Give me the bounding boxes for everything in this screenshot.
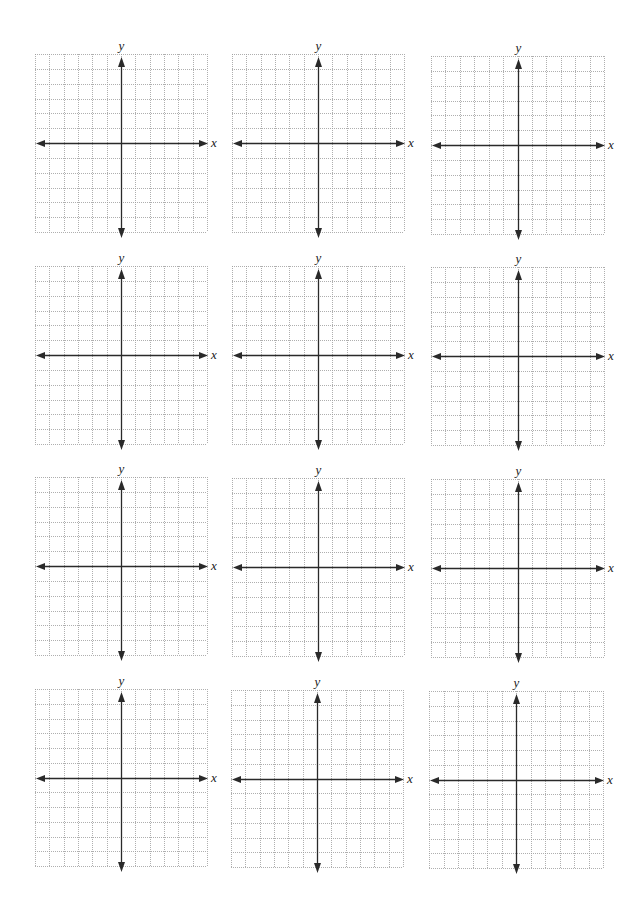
arrow-right-icon (595, 777, 604, 784)
x-axis-label: x (607, 773, 613, 786)
coordinate-plane-12: yx (429, 691, 603, 868)
coordinate-plane-7: yx (35, 477, 207, 655)
arrow-left-icon (432, 142, 441, 149)
arrow-up-icon (315, 57, 322, 67)
coordinate-plane-2: yx (232, 54, 404, 232)
arrow-up-icon (515, 59, 522, 69)
grid (35, 689, 207, 866)
y-axis-label: y (315, 675, 321, 688)
y-axis-label: y (316, 463, 322, 476)
grid (232, 478, 404, 656)
arrow-up-icon (315, 481, 322, 491)
arrow-right-icon (199, 775, 208, 782)
x-axis-label: x (211, 348, 217, 361)
arrow-right-icon (396, 352, 405, 359)
x-axis-label: x (408, 348, 414, 361)
arrow-left-icon (36, 775, 45, 782)
arrow-down-icon (118, 440, 125, 450)
arrow-left-icon (432, 353, 441, 360)
x-axis-label: x (608, 349, 614, 362)
y-axis-label: y (119, 39, 125, 52)
arrow-down-icon (314, 863, 321, 873)
arrow-down-icon (315, 440, 322, 450)
grid (35, 54, 207, 232)
coordinate-plane-10: yx (35, 689, 207, 866)
arrow-right-icon (596, 353, 605, 360)
arrow-up-icon (513, 694, 520, 704)
grid (431, 267, 604, 445)
arrow-up-icon (315, 269, 322, 279)
grid (429, 691, 603, 868)
arrow-down-icon (515, 230, 522, 240)
arrow-left-icon (233, 564, 242, 571)
y-axis-label: y (316, 251, 322, 264)
x-axis-label: x (407, 772, 413, 785)
y-axis-label: y (119, 674, 125, 687)
arrow-left-icon (36, 140, 45, 147)
grid (431, 479, 604, 657)
arrow-right-icon (396, 140, 405, 147)
arrow-up-icon (515, 270, 522, 280)
x-axis-label: x (408, 560, 414, 573)
arrow-right-icon (596, 565, 605, 572)
grid (35, 477, 207, 655)
arrow-down-icon (513, 864, 520, 874)
y-axis-label: y (516, 252, 522, 265)
coordinate-plane-8: yx (232, 478, 404, 656)
arrow-right-icon (199, 563, 208, 570)
x-axis-label: x (211, 136, 217, 149)
arrow-down-icon (515, 653, 522, 663)
grid (231, 690, 403, 867)
arrow-left-icon (233, 352, 242, 359)
y-axis-label: y (119, 462, 125, 475)
coordinate-plane-9: yx (431, 479, 604, 657)
arrow-up-icon (515, 482, 522, 492)
arrow-down-icon (315, 652, 322, 662)
arrow-left-icon (233, 140, 242, 147)
arrow-down-icon (118, 651, 125, 661)
grid (232, 266, 404, 444)
coordinate-plane-4: yx (35, 266, 207, 444)
x-axis-label: x (408, 136, 414, 149)
grid (35, 266, 207, 444)
y-axis-label: y (516, 464, 522, 477)
arrow-right-icon (199, 352, 208, 359)
y-axis-label: y (516, 41, 522, 54)
arrow-left-icon (430, 777, 439, 784)
x-axis-label: x (608, 138, 614, 151)
arrow-down-icon (315, 228, 322, 238)
coordinate-plane-5: yx (232, 266, 404, 444)
arrow-right-icon (395, 776, 404, 783)
arrow-left-icon (432, 565, 441, 572)
x-axis-label: x (211, 559, 217, 572)
y-axis-label: y (119, 251, 125, 264)
y-axis-label: y (316, 39, 322, 52)
grid (232, 54, 404, 232)
x-axis-label: x (608, 561, 614, 574)
grid (431, 56, 604, 234)
arrow-down-icon (118, 862, 125, 872)
coordinate-plane-11: yx (231, 690, 403, 867)
arrow-up-icon (118, 57, 125, 67)
arrow-left-icon (232, 776, 241, 783)
arrow-left-icon (36, 563, 45, 570)
arrow-up-icon (118, 480, 125, 490)
arrow-up-icon (118, 269, 125, 279)
x-axis-label: x (211, 771, 217, 784)
arrow-left-icon (36, 352, 45, 359)
coordinate-plane-1: yx (35, 54, 207, 232)
arrow-right-icon (396, 564, 405, 571)
arrow-up-icon (118, 692, 125, 702)
arrow-right-icon (596, 142, 605, 149)
arrow-down-icon (118, 228, 125, 238)
arrow-down-icon (515, 441, 522, 451)
y-axis-label: y (514, 676, 520, 689)
arrow-up-icon (314, 693, 321, 703)
coordinate-plane-6: yx (431, 267, 604, 445)
arrow-right-icon (199, 140, 208, 147)
coordinate-plane-3: yx (431, 56, 604, 234)
